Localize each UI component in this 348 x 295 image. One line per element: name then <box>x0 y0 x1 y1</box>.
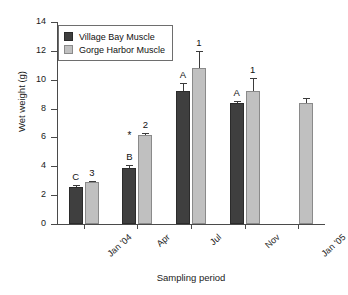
bar <box>230 103 244 224</box>
error-bar-cap <box>89 181 96 182</box>
x-tick-label: Nov <box>263 232 282 250</box>
y-tick-label: 6 <box>24 131 46 141</box>
x-tick-label: Jan '04 <box>105 232 133 259</box>
bar <box>299 103 313 224</box>
bar-annotation: 1 <box>185 37 213 48</box>
y-tick <box>51 51 57 52</box>
y-tick <box>51 224 57 225</box>
bar-annotation: 2 <box>131 119 159 130</box>
x-tick <box>191 224 192 229</box>
error-bar-cap <box>196 51 203 52</box>
error-bar <box>199 51 200 68</box>
bar <box>69 187 83 224</box>
y-tick-label: 10 <box>24 74 46 84</box>
error-bar-cap <box>142 133 149 134</box>
x-tick-label: Jul <box>208 232 223 247</box>
error-bar <box>253 78 254 90</box>
x-tick-label: Jan '05 <box>320 232 348 259</box>
error-bar-cap <box>234 101 241 102</box>
y-tick <box>51 166 57 167</box>
legend-label-village-bay: Village Bay Muscle <box>79 32 155 42</box>
x-tick-label: Apr <box>155 232 172 249</box>
x-tick <box>298 224 299 229</box>
legend-swatch-village-bay <box>64 32 73 41</box>
y-tick-label: 8 <box>24 103 46 113</box>
legend-entry-village-bay: Village Bay Muscle <box>64 30 165 43</box>
error-bar-cap <box>73 185 80 186</box>
y-tick <box>51 137 57 138</box>
legend-entry-gorge-harbor: Gorge Harbor Muscle <box>64 43 165 56</box>
y-tick-label: 0 <box>24 218 46 228</box>
bar <box>246 91 260 224</box>
bar <box>138 135 152 224</box>
x-axis-title: Sampling period <box>57 272 325 283</box>
y-tick-label: 4 <box>24 160 46 170</box>
y-tick <box>51 80 57 81</box>
error-bar <box>183 83 184 91</box>
y-tick <box>51 22 57 23</box>
significance-marker-icon: * <box>119 133 139 139</box>
bar <box>192 68 206 224</box>
bar-annotation: 1 <box>239 64 267 75</box>
bar <box>85 182 99 224</box>
x-tick <box>245 224 246 229</box>
bar <box>122 168 136 224</box>
legend-swatch-gorge-harbor <box>64 45 73 54</box>
error-bar-cap <box>180 83 187 84</box>
y-tick <box>51 195 57 196</box>
x-tick <box>84 224 85 229</box>
error-bar-cap <box>250 78 257 79</box>
chart-legend: Village Bay Muscle Gorge Harbor Muscle <box>58 25 173 61</box>
error-bar-cap <box>303 98 310 99</box>
y-tick-label: 12 <box>24 45 46 55</box>
legend-label-gorge-harbor: Gorge Harbor Muscle <box>79 45 165 55</box>
y-tick-label: 14 <box>24 16 46 26</box>
bar <box>176 91 190 224</box>
y-tick-label: 2 <box>24 189 46 199</box>
x-tick <box>137 224 138 229</box>
bar-annotation: 3 <box>78 167 106 178</box>
error-bar-cap <box>126 165 133 166</box>
y-tick <box>51 109 57 110</box>
